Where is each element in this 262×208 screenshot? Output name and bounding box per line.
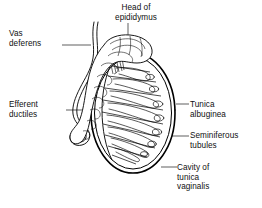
label-tunica-albuginea: Tunica albuginea	[190, 100, 260, 119]
label-vas-deferens: Vas deferens	[9, 29, 71, 48]
label-efferent-ductiles: Efferent ductiles	[9, 100, 75, 119]
label-seminiferous-tubules: Seminiferous tubules	[190, 131, 262, 150]
label-cavity-of-tunica-vaginalis: Cavity of tunica vaginalis	[177, 163, 261, 192]
label-head-of-epididymus: Head of epididymus	[98, 3, 174, 22]
